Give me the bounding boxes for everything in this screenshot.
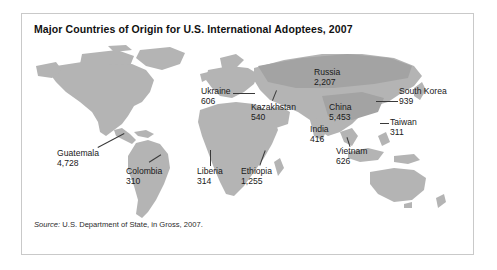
source-note: Source: U.S. Department of State, in Gro… <box>34 220 203 229</box>
madagascar <box>274 158 284 176</box>
north-america <box>50 62 154 136</box>
label-name: China <box>329 102 351 112</box>
figure-panel: Major Countries of Origin for U.S. Inter… <box>21 13 474 255</box>
label-value: 540 <box>251 113 296 123</box>
label-name: Taiwan <box>390 117 417 127</box>
map-label-ethiopia: Ethiopia 1,255 <box>241 167 272 187</box>
label-value: 1,255 <box>241 177 272 187</box>
map-label-colombia: Colombia 310 <box>126 167 162 187</box>
page-title: Major Countries of Origin for U.S. Inter… <box>34 23 353 35</box>
label-value: 4,728 <box>57 159 99 169</box>
label-value: 939 <box>399 97 447 107</box>
label-value: 311 <box>390 128 417 138</box>
map-label-south-korea: South Korea 939 <box>399 87 447 107</box>
label-name: Ukraine <box>201 86 231 96</box>
leader-liberia <box>210 150 211 166</box>
label-name: Russia <box>314 67 340 77</box>
label-value: 5,453 <box>329 113 351 123</box>
map-label-liberia: Liberia 314 <box>197 167 223 187</box>
label-value: 2,207 <box>314 78 340 88</box>
world-map: Russia 2,207 Ukraine 606 Kazakhstan 540 … <box>22 44 473 219</box>
new-guinea <box>394 154 420 164</box>
map-label-vietnam: Vietnam 626 <box>336 147 367 167</box>
map-label-india: India 416 <box>310 125 329 145</box>
label-name: Vietnam <box>336 146 367 156</box>
greenland <box>136 47 185 70</box>
label-name: Liberia <box>197 166 223 176</box>
caribbean <box>134 130 154 138</box>
label-name: Kazakhstan <box>251 102 296 112</box>
label-name: South Korea <box>399 86 447 96</box>
map-label-kazakhstan: Kazakhstan 540 <box>251 103 296 123</box>
map-label-taiwan: Taiwan 311 <box>390 118 417 138</box>
map-label-russia: Russia 2,207 <box>314 68 340 88</box>
label-value: 416 <box>310 135 329 145</box>
map-label-china: China 5,453 <box>329 103 351 123</box>
map-label-guatemala: Guatemala 4,728 <box>57 149 99 169</box>
map-label-ukraine: Ukraine 606 <box>201 87 231 107</box>
label-name: India <box>310 124 329 134</box>
label-name: Guatemala <box>57 148 99 158</box>
source-prefix: Source: <box>34 220 60 229</box>
scandinavia <box>220 54 244 68</box>
label-name: Colombia <box>126 166 162 176</box>
label-value: 626 <box>336 157 367 167</box>
label-value: 606 <box>201 97 231 107</box>
tasmania <box>404 202 412 208</box>
label-name: Ethiopia <box>241 166 272 176</box>
leader-ukraine <box>233 93 255 94</box>
new-zealand <box>436 194 446 208</box>
label-value: 314 <box>197 177 223 187</box>
source-text: U.S. Department of State, in Gross, 2007… <box>60 220 203 229</box>
leader-south-korea <box>376 101 398 102</box>
leader-taiwan <box>380 123 389 124</box>
philippines <box>378 132 390 146</box>
australia <box>370 168 426 202</box>
label-value: 310 <box>126 177 162 187</box>
